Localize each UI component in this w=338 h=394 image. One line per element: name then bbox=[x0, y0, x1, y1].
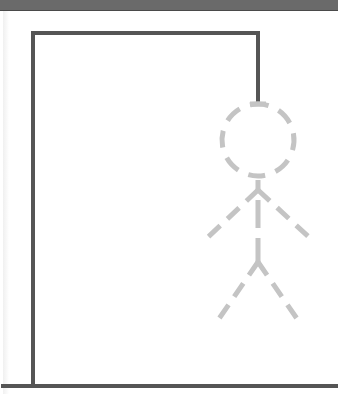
figure-head bbox=[216, 98, 299, 181]
hangman-canvas bbox=[0, 0, 338, 394]
figure-left-leg bbox=[214, 262, 258, 326]
hangman-drawing bbox=[0, 0, 338, 394]
hangman-figure bbox=[205, 98, 312, 326]
figure-left-arm bbox=[205, 190, 258, 240]
figure-right-arm bbox=[258, 190, 312, 240]
gallows bbox=[3, 33, 338, 386]
figure-right-leg bbox=[258, 262, 302, 326]
